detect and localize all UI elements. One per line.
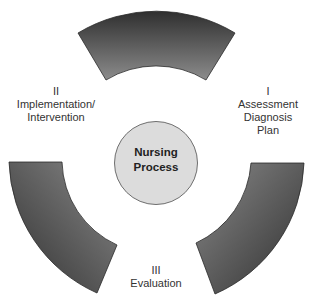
stage-1-line-1: Assessment: [228, 98, 308, 111]
stage-2-label: II Implementation/ Intervention: [8, 85, 104, 124]
stage-3-numeral: III: [120, 264, 192, 277]
segment-right: [196, 163, 304, 294]
segment-top: [78, 11, 235, 80]
center-line-1: Nursing: [114, 145, 198, 160]
stage-2-line-2: Intervention: [8, 111, 104, 124]
stage-1-line-3: Plan: [228, 124, 308, 137]
stage-1-label: I Assessment Diagnosis Plan: [228, 85, 308, 137]
stage-3-label: III Evaluation: [120, 264, 192, 290]
stage-2-line-1: Implementation/: [8, 98, 104, 111]
center-label: Nursing Process: [114, 145, 198, 175]
stage-1-numeral: I: [228, 85, 308, 98]
stage-2-numeral: II: [8, 85, 104, 98]
segment-left: [9, 162, 117, 293]
stage-1-line-2: Diagnosis: [228, 111, 308, 124]
stage-3-line-1: Evaluation: [120, 277, 192, 290]
center-line-2: Process: [114, 160, 198, 175]
